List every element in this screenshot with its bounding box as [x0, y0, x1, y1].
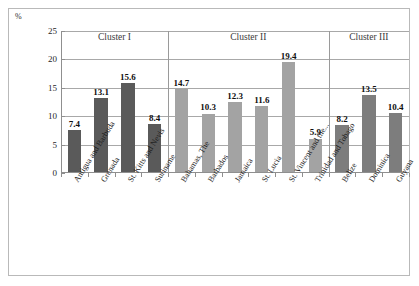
gridline-20 [61, 59, 409, 60]
x-tick-mark [382, 173, 383, 177]
y-tick-mark [61, 59, 65, 60]
bar [175, 89, 188, 172]
chart-frame: % 0510152025 Cluster ICluster IICluster … [8, 8, 410, 276]
bar-value-label: 13.5 [361, 84, 377, 94]
y-tick-mark [61, 88, 65, 89]
bar-value-label: 8.4 [149, 113, 160, 123]
y-tick-label: 0 [53, 168, 58, 178]
bar [228, 102, 241, 172]
y-tick-label: 10 [48, 111, 57, 121]
bar [389, 113, 402, 172]
y-tick-label: 25 [48, 26, 57, 36]
cluster-header-label: Cluster III [329, 32, 409, 42]
bar-value-label: 10.3 [200, 102, 216, 112]
bar [282, 62, 295, 172]
bar-value-label: 11.6 [254, 95, 269, 105]
x-tick-mark [355, 173, 356, 177]
cluster-header-label: Cluster I [61, 32, 168, 42]
bar-value-label: 10.4 [388, 102, 404, 112]
x-tick-mark [248, 173, 249, 177]
y-axis-unit-label: % [15, 12, 22, 21]
x-tick-mark [141, 173, 142, 177]
cluster-header-label: Cluster II [168, 32, 329, 42]
bar-value-label: 13.1 [93, 87, 109, 97]
x-tick-mark [195, 173, 196, 177]
bar [121, 83, 134, 172]
y-tick-label: 15 [48, 83, 57, 93]
y-tick-mark [61, 116, 65, 117]
bar-value-label: 8.2 [336, 114, 347, 124]
x-tick-mark [275, 173, 276, 177]
bar-value-label: 14.7 [174, 78, 190, 88]
x-tick-mark [329, 173, 330, 177]
y-tick-label: 20 [48, 54, 57, 64]
y-tick-mark [61, 145, 65, 146]
bar-value-label: 19.4 [281, 51, 297, 61]
x-tick-mark [302, 173, 303, 177]
x-tick-mark [88, 173, 89, 177]
gridline-15 [61, 88, 409, 89]
x-tick-mark [115, 173, 116, 177]
bar-value-label: 7.4 [69, 119, 80, 129]
y-tick-label: 5 [53, 140, 58, 150]
x-tick-mark [168, 173, 169, 177]
bar-value-label: 12.3 [227, 91, 243, 101]
x-tick-mark [222, 173, 223, 177]
x-tick-mark [409, 173, 410, 177]
x-tick-mark [61, 173, 62, 177]
plot-area: 0510152025 Cluster ICluster IICluster II… [61, 31, 409, 173]
bar-value-label: 15.6 [120, 72, 136, 82]
bar [255, 106, 268, 172]
bar [362, 95, 375, 172]
y-axis-line [61, 31, 62, 173]
